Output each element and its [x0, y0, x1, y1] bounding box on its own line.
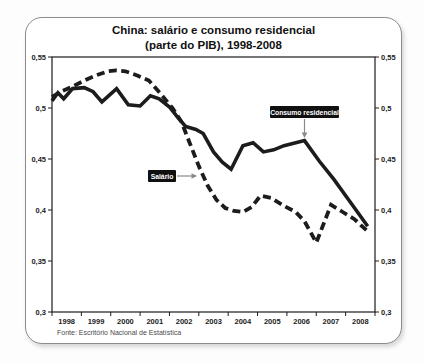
- x-axis-label: 2007: [323, 317, 340, 326]
- x-axis-label: 2006: [293, 317, 310, 326]
- plot-border: [52, 57, 375, 312]
- y-axis-label-left: 0,45: [31, 155, 46, 164]
- x-axis-label: 2000: [117, 317, 134, 326]
- y-axis-label-left: 0,55: [31, 53, 46, 62]
- x-axis-label: 1999: [88, 317, 105, 326]
- page: { "title": { "line1": "China: salário e …: [0, 0, 424, 363]
- x-axis-label: 2002: [176, 317, 193, 326]
- y-axis-label-right: 0,35: [381, 257, 396, 266]
- annotation-arrowhead: [192, 173, 198, 179]
- source-note: Fonte: Escritório Nacional de Estatístic…: [57, 329, 181, 336]
- y-axis-label-right: 0,45: [381, 155, 396, 164]
- y-axis-label-right: 0,5: [381, 104, 391, 113]
- y-axis-label-right: 0,55: [381, 53, 396, 62]
- annotation-label: Consumo residencial: [270, 109, 339, 116]
- y-axis-label-left: 0,3: [36, 308, 46, 317]
- x-axis-label: 1998: [58, 317, 75, 326]
- x-axis-label: 2003: [205, 317, 222, 326]
- x-axis-label: 2004: [235, 317, 253, 326]
- y-axis-label-left: 0,5: [36, 104, 46, 113]
- x-axis-label: 2005: [264, 317, 281, 326]
- series-line-salario: [52, 70, 368, 242]
- annotation-arrowhead: [302, 133, 308, 139]
- y-axis-label-right: 0,4: [381, 206, 392, 215]
- annotation-label: Salário: [151, 173, 174, 180]
- line-chart: 0,550,550,50,50,450,450,40,40,350,350,30…: [0, 0, 424, 363]
- y-axis-label-right: 0,3: [381, 308, 391, 317]
- x-axis-label: 2001: [146, 317, 163, 326]
- y-axis-label-left: 0,35: [31, 257, 46, 266]
- y-axis-label-left: 0,4: [36, 206, 47, 215]
- x-axis-label: 2008: [352, 317, 369, 326]
